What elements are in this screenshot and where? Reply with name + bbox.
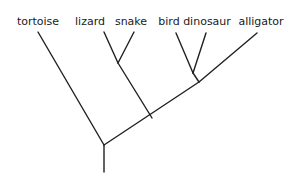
branch-archosaurs: [104, 82, 199, 145]
branch-lizard: [104, 32, 118, 63]
branch-tortoise: [38, 32, 104, 145]
branch-bird: [176, 33, 193, 73]
cladogram-figure: tortoiselizardsnakebirddinosauralligator: [0, 0, 290, 178]
tip-label-dinosaur: dinosaur: [183, 16, 231, 28]
branch-bird-dino: [193, 73, 199, 82]
tip-label-bird: bird: [158, 16, 179, 28]
branch-snake: [118, 32, 134, 63]
branch-group: [38, 32, 257, 172]
branch-alligator: [199, 33, 257, 82]
tip-label-tortoise: tortoise: [17, 16, 59, 28]
tip-label-alligator: alligator: [238, 16, 283, 28]
branch-dinosaur: [193, 33, 206, 73]
tip-label-snake: snake: [115, 16, 147, 28]
tip-label-lizard: lizard: [75, 16, 105, 28]
branch-squamates: [118, 63, 152, 118]
